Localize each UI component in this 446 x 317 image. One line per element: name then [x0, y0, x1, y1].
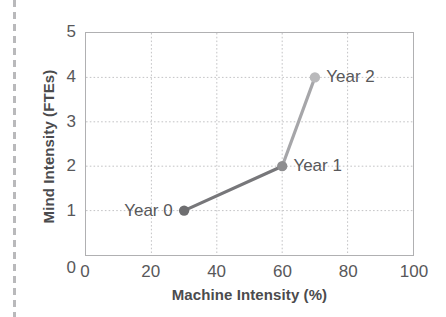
- data-point-marker: [310, 72, 320, 82]
- x-tick-label: 80: [318, 262, 378, 282]
- y-tick-label: 4: [54, 68, 76, 85]
- x-tick-label: 20: [121, 262, 181, 282]
- data-point-label: Year 1: [293, 157, 342, 175]
- series-line-segment: [184, 166, 282, 210]
- x-tick-label: 40: [187, 262, 247, 282]
- data-point-marker: [277, 161, 287, 171]
- data-series: [179, 72, 320, 216]
- x-tick-label: 60: [252, 262, 312, 282]
- x-tick-label: 100: [384, 262, 444, 282]
- y-axis-title: Mind Intensity (FTEs): [40, 37, 57, 257]
- x-tick-label: 0: [55, 262, 115, 282]
- data-point-marker: [179, 205, 189, 215]
- y-tick-label: 3: [54, 113, 76, 130]
- data-point-label: Year 2: [326, 68, 375, 86]
- y-tick-label: 2: [54, 157, 76, 174]
- data-point-label: Year 0: [124, 202, 173, 220]
- chart-figure: 012345 020406080100 Year 0Year 1Year 2 M…: [0, 0, 446, 317]
- left-dashed-rule: [13, 0, 16, 317]
- y-tick-label: 5: [54, 23, 76, 40]
- x-axis-title: Machine Intensity (%): [85, 286, 414, 303]
- y-tick-label: 1: [54, 202, 76, 219]
- plot-area: [85, 32, 414, 256]
